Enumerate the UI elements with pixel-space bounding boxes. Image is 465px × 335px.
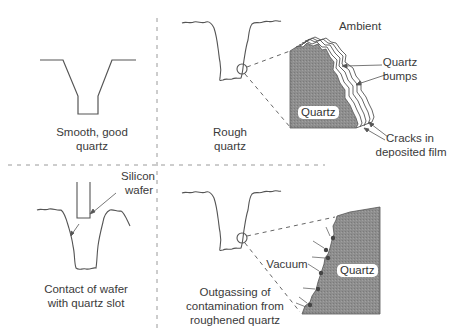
quartz-bumps-label-line1: Quartz (370, 56, 430, 69)
ambient-label: Ambient (325, 20, 395, 33)
quartz-bumps-label-line2: bumps (370, 70, 430, 83)
smooth-quartz-profile (40, 60, 136, 114)
cracks-label-line1: Cracks in (370, 132, 450, 145)
caption-contact-line2: with quartz slot (36, 297, 136, 310)
caption-smooth-line2: quartz (52, 140, 132, 153)
rough-quartz-material-label: Quartz (298, 106, 339, 119)
outgassing-quartz-material-label: Quartz (337, 264, 378, 277)
silicon-wafer-label-line1: Silicon (113, 170, 163, 183)
caption-smooth-line1: Smooth, good (52, 126, 132, 139)
caption-contact-line1: Contact of wafer (36, 283, 136, 296)
caption-outgassing-line2: contamination from (180, 300, 290, 313)
rough-zoom-lines (245, 51, 290, 127)
caption-rough-line1: Rough (200, 126, 260, 139)
outgassing-quartz-block (302, 207, 380, 314)
silicon-wafer-label-line2: wafer (117, 184, 161, 197)
cracks-label-line2: deposited film (368, 146, 454, 159)
caption-outgassing-line1: Outgassing of (180, 286, 290, 299)
rough-quartz-profile (182, 21, 281, 81)
vacuum-label: Vacuum (262, 258, 312, 271)
silicon-wafer (77, 182, 90, 218)
outgassing-quartz-profile (182, 191, 281, 251)
caption-rough-line2: quartz (200, 140, 260, 153)
contact-callout-arrows (71, 193, 116, 236)
caption-outgassing-line3: roughened quartz (180, 314, 290, 327)
